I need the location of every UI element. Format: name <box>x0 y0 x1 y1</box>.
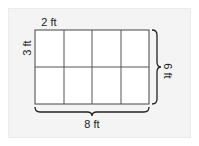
total-height-label: 6 ft <box>162 63 174 78</box>
cell-width-label: 2 ft <box>41 16 56 28</box>
total-width-label: 8 ft <box>84 118 99 130</box>
cell-height-label: 3 ft <box>21 40 33 55</box>
bottom-brace-icon <box>35 107 149 116</box>
grid-diagram: 2 ft 3 ft 6 ft 8 ft <box>0 0 199 146</box>
right-brace-icon <box>152 30 161 104</box>
